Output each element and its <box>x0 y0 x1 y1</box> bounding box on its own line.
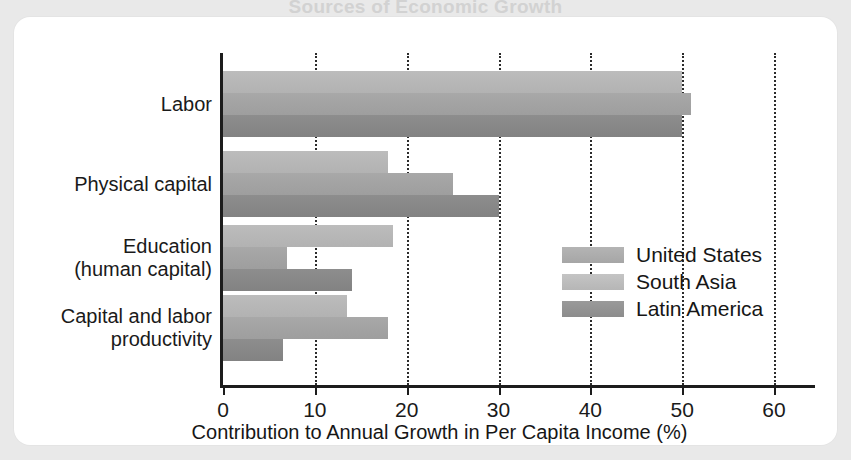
category-label-2: Education(human capital) <box>12 235 212 281</box>
category-label-line: Physical capital <box>12 173 212 196</box>
category-axis-labels: LaborPhysical capitalEducation(human cap… <box>14 53 212 385</box>
bar <box>223 247 287 269</box>
bar <box>223 195 499 217</box>
x-tick-label-40: 40 <box>560 398 620 422</box>
bar <box>223 317 388 339</box>
category-label-line: Education <box>12 235 212 258</box>
bar <box>223 173 453 195</box>
x-tick-label-0: 0 <box>193 398 253 422</box>
x-axis-title: Contribution to Annual Growth in Per Cap… <box>14 421 851 444</box>
x-tick-0 <box>223 385 225 395</box>
legend-item-0[interactable]: United States <box>562 243 763 267</box>
legend-label: Latin America <box>636 297 763 321</box>
category-label-1: Physical capital <box>12 173 212 196</box>
legend-item-1[interactable]: South Asia <box>562 270 763 294</box>
x-tick-label-30: 30 <box>469 398 529 422</box>
category-label-line: Labor <box>12 93 212 116</box>
legend-swatch-icon <box>562 301 624 317</box>
x-tick-60 <box>774 385 776 395</box>
x-tick-30 <box>499 385 501 395</box>
bar <box>223 269 352 291</box>
x-tick-label-20: 20 <box>377 398 437 422</box>
bar <box>223 225 393 247</box>
legend-swatch-icon <box>562 274 624 290</box>
bar <box>223 151 388 173</box>
x-tick-50 <box>682 385 684 395</box>
category-label-line: (human capital) <box>12 258 212 281</box>
category-label-0: Labor <box>12 93 212 116</box>
x-tick-label-60: 60 <box>744 398 804 422</box>
figure-card: LaborPhysical capitalEducation(human cap… <box>14 17 837 445</box>
legend-label: United States <box>636 243 762 267</box>
x-tick-label-50: 50 <box>652 398 712 422</box>
gridline-60 <box>774 53 776 385</box>
category-label-line: Capital and labor <box>12 305 212 328</box>
clipped-figure-title: Sources of Economic Growth <box>0 0 851 15</box>
x-axis-spine <box>220 385 815 388</box>
x-tick-20 <box>407 385 409 395</box>
plot-area: 0102030405060 <box>223 53 774 385</box>
bar <box>223 339 283 361</box>
legend-item-2[interactable]: Latin America <box>562 297 763 321</box>
legend: United StatesSouth AsiaLatin America <box>562 243 763 324</box>
bar <box>223 93 691 115</box>
bar <box>223 115 682 137</box>
bar <box>223 295 347 317</box>
bar <box>223 71 682 93</box>
category-label-3: Capital and laborproductivity <box>12 305 212 351</box>
x-tick-label-10: 10 <box>285 398 345 422</box>
legend-swatch-icon <box>562 247 624 263</box>
x-tick-40 <box>590 385 592 395</box>
legend-label: South Asia <box>636 270 736 294</box>
x-tick-10 <box>315 385 317 395</box>
category-label-line: productivity <box>12 328 212 351</box>
